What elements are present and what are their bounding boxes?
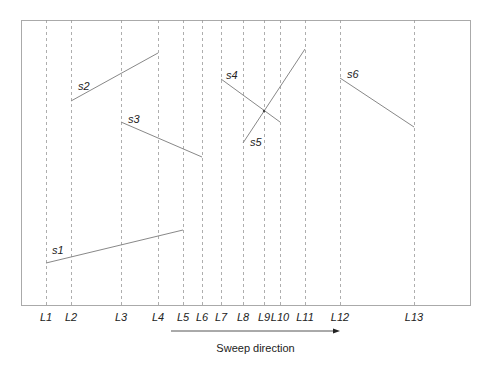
sweep-lines-group: L1L2L3L4L5L6L7L8L9L10L11L12L13 <box>40 20 424 323</box>
sweep-line-label: L5 <box>177 311 190 323</box>
sweep-direction-arrow: Sweep direction <box>171 329 340 355</box>
sweep-line-label: L10 <box>271 311 290 323</box>
segments-group: s1s2s3s4s5s6 <box>46 49 414 263</box>
segment-label: s6 <box>347 68 360 80</box>
sweep-line-label: L4 <box>152 311 164 323</box>
segment-s1 <box>46 230 183 263</box>
sweep-line-label: L1 <box>40 311 52 323</box>
segment-label: s2 <box>78 80 90 92</box>
sweep-line-label: L13 <box>405 311 424 323</box>
sweep-line-diagram: L1L2L3L4L5L6L7L8L9L10L11L12L13 s1s2s3s4s… <box>0 0 488 372</box>
segment-label: s3 <box>128 113 141 125</box>
sweep-line-label: L7 <box>215 311 228 323</box>
segment-label: s1 <box>52 244 64 256</box>
arrow-head-icon <box>333 329 340 334</box>
sweep-line-label: L9 <box>258 311 270 323</box>
sweep-line-label: L8 <box>237 311 250 323</box>
sweep-line-label: L2 <box>65 311 77 323</box>
sweep-line-label: L11 <box>296 311 314 323</box>
sweep-direction-caption: Sweep direction <box>216 342 294 354</box>
segment-s3 <box>121 122 202 157</box>
sweep-line-label: L3 <box>115 311 128 323</box>
segment-label: s4 <box>226 69 238 81</box>
sweep-line-label: L6 <box>196 311 209 323</box>
segment-s5 <box>243 49 305 143</box>
segment-s2 <box>71 53 158 101</box>
diagram-frame <box>22 21 471 306</box>
sweep-line-label: L12 <box>331 311 349 323</box>
segment-s6 <box>340 78 414 127</box>
intersection-point <box>263 110 265 112</box>
segment-label: s5 <box>250 136 263 148</box>
